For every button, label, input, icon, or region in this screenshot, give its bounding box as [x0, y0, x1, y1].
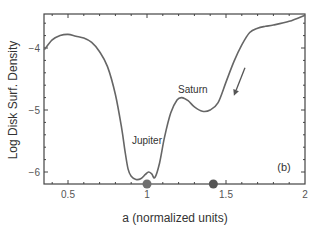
- y-tick-label: −4: [29, 43, 41, 54]
- x-axis-title: a (normalized units): [122, 211, 227, 225]
- migration-arrow-icon: [233, 68, 245, 96]
- x-tick-label: 1: [144, 189, 150, 200]
- y-axis-ticks: −4−5−6: [29, 23, 305, 177]
- panel-label: (b): [277, 161, 290, 173]
- chart: 0.511.52 −4−5−6 Jupiter Saturn (b) a (no…: [0, 0, 324, 236]
- density-curve: [44, 15, 305, 180]
- saturn-position-marker: [209, 180, 218, 189]
- plot-frame: [44, 14, 305, 184]
- x-tick-label: 0.5: [61, 189, 75, 200]
- saturn-label: Saturn: [178, 84, 207, 95]
- plot-border: [44, 14, 305, 184]
- jupiter-label: Jupiter: [132, 135, 163, 146]
- x-tick-label: 2: [302, 189, 308, 200]
- x-tick-label: 1.5: [219, 189, 233, 200]
- y-tick-label: −6: [29, 167, 41, 178]
- y-axis-title: Log Disk Surf. Density: [6, 41, 20, 160]
- y-tick-label: −5: [29, 105, 41, 116]
- jupiter-position-marker: [143, 180, 152, 189]
